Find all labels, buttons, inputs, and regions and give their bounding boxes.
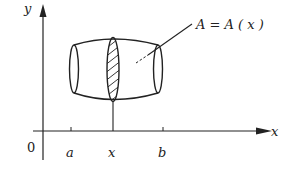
y-axis-label: y xyxy=(23,1,32,16)
y-axis-arrow-icon xyxy=(40,4,47,17)
x-axis-label: x xyxy=(271,124,279,139)
origin-label: 0 xyxy=(27,140,35,155)
tick-label-x: x xyxy=(108,145,116,160)
cross-section xyxy=(104,36,122,131)
annotation-label: A = A ( x ) xyxy=(195,17,264,32)
volume-diagram: A = A ( x ) y x 0 a x b xyxy=(0,0,296,185)
x-axis-arrow-icon xyxy=(256,128,272,135)
annotation-leader xyxy=(136,24,192,63)
tick-label-b: b xyxy=(158,145,166,160)
tick-label-a: a xyxy=(66,145,74,160)
left-end-ellipse xyxy=(70,45,79,93)
right-end-ellipse xyxy=(154,45,163,93)
solid-body xyxy=(70,39,163,100)
y-axis xyxy=(40,4,47,160)
x-axis xyxy=(33,128,272,135)
cross-section-ellipse xyxy=(107,38,119,102)
